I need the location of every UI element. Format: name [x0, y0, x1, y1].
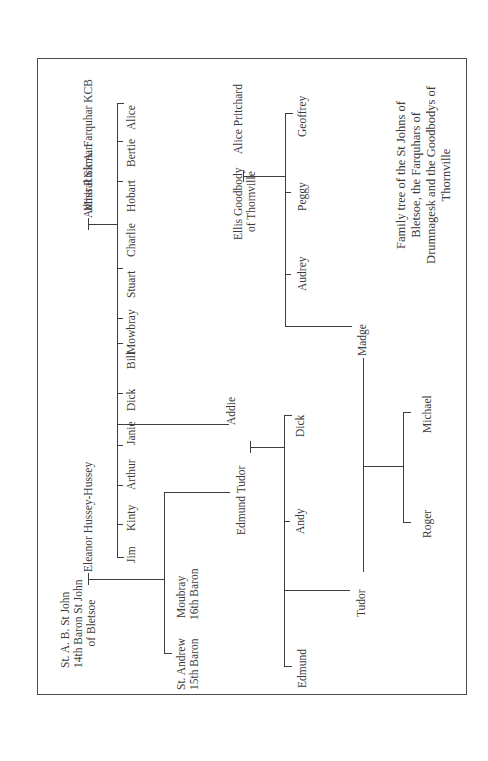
line-to-tudor — [284, 590, 350, 591]
person-miss-rickman: Miss Rickman — [82, 144, 95, 211]
st-john-line-2: 14th Baron St John — [72, 578, 85, 668]
tick-arthur — [117, 485, 123, 486]
tick-dick-tudor — [284, 415, 292, 416]
person-edmund: Edmund — [296, 649, 309, 688]
line-to-madge — [285, 326, 352, 327]
tick-bertie — [117, 141, 123, 142]
person-peggy: Peggy — [296, 182, 309, 211]
tick-hobart — [117, 181, 123, 182]
tick-st-andrew — [164, 653, 172, 654]
sibling-spine-barons — [164, 492, 165, 653]
tick-roger — [403, 522, 411, 523]
title-line-3: Drumnagesk and the Goodbodys of — [424, 60, 439, 290]
sibling-spine-roger-michael — [403, 412, 404, 523]
title-line-4: Thornville — [439, 60, 454, 290]
person-mowbray: Mowbray — [125, 309, 138, 354]
sibling-spine-goodbody — [285, 113, 286, 326]
ellis-line-1: Ellis Goodbody — [232, 160, 245, 240]
marriage-drop-stjohn — [88, 579, 164, 580]
person-st-andrew-15th-baron: St. Andrew 15th Baron — [175, 630, 201, 690]
person-st-john-14th-baron: St. A. B. St John 14th Baron St John of … — [59, 578, 98, 668]
person-dick-tudor: Dick — [294, 415, 307, 437]
marriage-line-tudor-madge — [363, 358, 364, 572]
tick-stuart — [117, 268, 123, 269]
line-to-edmund-tudor — [164, 492, 230, 493]
marriage-drop-tudor — [250, 447, 284, 448]
person-edmund-tudor: Edmund Tudor — [235, 466, 248, 535]
tick-jim — [117, 557, 124, 558]
person-hobart: Hobart — [125, 180, 138, 212]
person-jim: Jim — [125, 546, 138, 563]
tick-dick — [117, 393, 123, 394]
person-charlie: Charlie — [125, 223, 138, 257]
person-alice: Alice — [125, 105, 138, 130]
person-michael: Michael — [421, 395, 434, 433]
st-john-line-3: of Bletsoe — [85, 578, 98, 668]
tick-alice — [117, 103, 124, 104]
tick-peggy — [285, 192, 291, 193]
person-tudor: Tudor — [355, 589, 368, 617]
tick-edmund — [284, 666, 292, 667]
tick-michael — [403, 412, 411, 413]
person-geoffrey: Geoffrey — [296, 96, 309, 137]
marriage-drop-farquhar — [88, 224, 118, 225]
person-bertie: Bertie — [125, 139, 138, 167]
person-audrey: Audrey — [296, 257, 309, 292]
person-moubray-16th-baron: Moubray 16th Baron — [175, 560, 201, 620]
st-john-line-1: St. A. B. St John — [59, 578, 72, 668]
marriage-drop-tudor-madge — [363, 466, 404, 467]
tick-andy — [284, 521, 290, 522]
person-bill: Bill — [125, 352, 138, 369]
tick-kinty — [117, 524, 123, 525]
sibling-spine-main — [117, 103, 118, 558]
moubray-line-1: Moubray — [175, 560, 188, 620]
person-madge: Madge — [356, 324, 369, 356]
person-janie: Janie — [125, 421, 138, 445]
st-andrew-line-2: 15th Baron — [188, 630, 201, 690]
tick-bill — [117, 343, 123, 344]
tick-mowbray — [117, 318, 123, 319]
person-ellis-goodbody: Ellis Goodbody of Thornville — [232, 160, 258, 240]
person-eleanor-hussey-hussey: Eleanor Hussey-Hussey — [82, 462, 95, 572]
st-andrew-line-1: St. Andrew — [175, 630, 188, 690]
tick-geoffrey — [285, 113, 293, 114]
person-roger: Roger — [421, 510, 434, 538]
tick-janie — [117, 445, 123, 446]
tick-audrey — [285, 274, 291, 275]
ellis-line-2: of Thornville — [245, 160, 258, 240]
person-addie: Addie — [225, 397, 238, 425]
sibling-spine-tudor — [284, 415, 285, 667]
title-line-1: Family tree of the St Johns of — [394, 60, 409, 290]
person-alice-pritchard: Alice Pritchard — [232, 84, 245, 154]
person-kinty: Kinty — [125, 505, 138, 531]
title-line-2: Bletsoe, the Farquhars of — [409, 60, 424, 290]
moubray-line-2: 16th Baron — [188, 560, 201, 620]
diagram-title: Family tree of the St Johns of Bletsoe, … — [394, 60, 454, 290]
person-dick: Dick — [125, 389, 138, 411]
person-arthur: Arthur — [125, 459, 138, 490]
person-andy: Andy — [294, 508, 307, 534]
person-stuart: Stuart — [125, 271, 138, 298]
